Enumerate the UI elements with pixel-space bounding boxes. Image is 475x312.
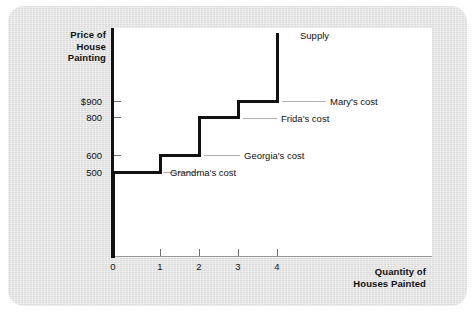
figure-root: Price of House Painting Quantity of Hous… bbox=[0, 0, 475, 312]
x-axis-title-line-2: Houses Painted bbox=[300, 278, 426, 290]
y-axis-title-line-3: Painting bbox=[18, 52, 106, 64]
y-tick-mark-600 bbox=[114, 155, 121, 156]
leader-line-frida bbox=[243, 118, 277, 119]
y-axis-title-line-2: House bbox=[18, 41, 106, 53]
supply-curve-riser-2 bbox=[198, 117, 201, 155]
supply-curve-step-mary bbox=[237, 100, 279, 103]
x-tick-mark-2 bbox=[199, 249, 200, 256]
y-tick-mark-900 bbox=[114, 101, 121, 102]
supply-curve-segment-origin-vertical bbox=[112, 172, 115, 258]
y-tick-label-600: 600 bbox=[44, 150, 102, 161]
y-tick-label-900: $900 bbox=[44, 96, 102, 107]
supply-curve-riser-3 bbox=[237, 101, 240, 117]
supply-curve-step-grandma bbox=[112, 171, 162, 174]
x-tick-mark-4 bbox=[277, 249, 278, 256]
x-tick-label-2: 2 bbox=[189, 261, 209, 272]
callout-frida-cost: Frida's cost bbox=[281, 113, 329, 124]
callout-grandma-cost: Grandma's cost bbox=[170, 167, 236, 178]
supply-curve-label: Supply bbox=[300, 30, 329, 41]
supply-curve-step-georgia bbox=[159, 154, 201, 157]
x-axis-line bbox=[113, 256, 432, 257]
supply-curve-riser-4 bbox=[276, 33, 279, 101]
x-tick-mark-3 bbox=[238, 249, 239, 256]
x-axis-title-line-1: Quantity of bbox=[300, 266, 426, 278]
y-tick-label-500: 500 bbox=[44, 167, 102, 178]
supply-curve-riser-1 bbox=[159, 155, 162, 172]
x-axis-title: Quantity of Houses Painted bbox=[300, 266, 426, 289]
x-tick-label-1: 1 bbox=[150, 261, 170, 272]
x-tick-label-4: 4 bbox=[267, 261, 287, 272]
y-axis-title: Price of House Painting bbox=[18, 29, 106, 64]
x-tick-label-0: 0 bbox=[103, 261, 123, 272]
y-tick-mark-800 bbox=[114, 117, 121, 118]
leader-line-georgia bbox=[204, 155, 240, 156]
x-tick-mark-1 bbox=[160, 249, 161, 256]
plot-area bbox=[113, 28, 432, 256]
x-tick-label-3: 3 bbox=[228, 261, 248, 272]
y-tick-label-800: 800 bbox=[44, 112, 102, 123]
y-axis-title-line-1: Price of bbox=[18, 29, 106, 41]
callout-mary-cost: Mary's cost bbox=[330, 96, 378, 107]
callout-georgia-cost: Georgia's cost bbox=[244, 150, 304, 161]
supply-curve-step-frida bbox=[198, 116, 240, 119]
leader-line-mary bbox=[282, 101, 326, 102]
